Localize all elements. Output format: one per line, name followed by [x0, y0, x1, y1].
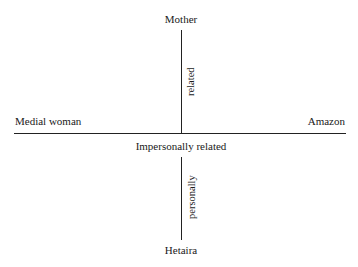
- horizontal-axis: [14, 133, 346, 134]
- pole-right-label: Amazon: [308, 116, 345, 127]
- vertical-axis-upper: [181, 30, 182, 133]
- lower-vertical-label: personally: [187, 175, 198, 219]
- vertical-axis-lower: [181, 157, 182, 240]
- horizontal-center-label: Impersonally related: [136, 141, 227, 152]
- pole-top-label: Mother: [165, 14, 197, 25]
- pole-left-label: Medial woman: [15, 116, 81, 127]
- pole-bottom-label: Hetaira: [165, 245, 197, 256]
- upper-vertical-label: related: [186, 67, 197, 96]
